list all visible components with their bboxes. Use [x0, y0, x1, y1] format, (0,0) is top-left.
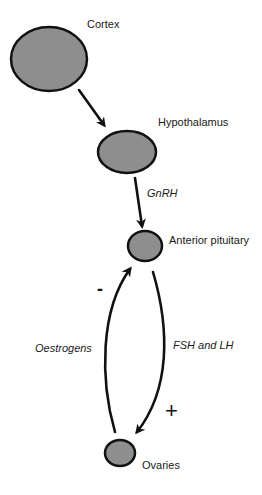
ovaries-label: Ovaries [142, 460, 180, 471]
oestrogens-label: Oestrogens [35, 343, 92, 354]
gnrh-arrow [135, 178, 142, 226]
hormone-feedback-diagram: Cortex Hypothalamus Anterior pituitary O… [0, 0, 262, 495]
cortex-node [11, 27, 87, 91]
cortex-to-hypothalamus-arrow [79, 90, 104, 125]
fsh-lh-arrow [137, 272, 164, 432]
ovaries-node [105, 440, 135, 466]
anterior-pituitary-label: Anterior pituitary [169, 235, 249, 246]
gnrh-label: GnRH [147, 188, 178, 199]
hypothalamus-label: Hypothalamus [158, 117, 228, 128]
positive-feedback-sign: + [165, 400, 178, 422]
fsh-lh-label: FSH and LH [173, 340, 234, 351]
cortex-label: Cortex [87, 19, 119, 30]
hypothalamus-node [98, 131, 156, 173]
oestrogens-feedback-arrow [105, 269, 130, 432]
anterior-pituitary-node [128, 231, 162, 261]
diagram-graphics [0, 0, 262, 495]
negative-feedback-sign: - [97, 280, 103, 298]
